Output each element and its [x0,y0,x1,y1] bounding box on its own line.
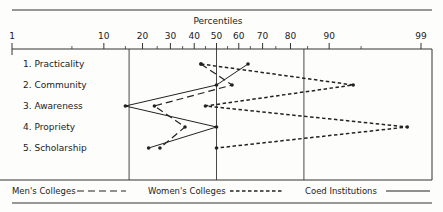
x-tick-label: 50 [211,31,223,41]
category-label: 5. Scholarship [23,143,87,153]
data-point-men-s-colleges [230,83,234,87]
x-tick-label: 40 [189,31,201,41]
data-point-women-s-colleges [215,146,219,150]
data-point-women-s-colleges [204,104,208,108]
data-point-men-s-colleges [153,104,157,108]
category-labels: 1. Practicality2. Community3. Awareness4… [23,59,87,153]
data-point-coed-institutions [124,104,128,108]
x-tick-label: 10 [98,31,110,41]
data-point-men-s-colleges [158,146,162,150]
category-label: 2. Community [23,80,87,90]
legend: Men's CollegesWomen's CollegesCoed Insti… [12,186,430,196]
data-point-coed-institutions [215,83,219,87]
data-point-coed-institutions [147,146,151,150]
legend-label: Women's Colleges [148,186,226,196]
category-label: 1. Practicality [23,59,85,69]
category-label: 4. Propriety [23,122,76,132]
x-tick-label: 70 [257,31,269,41]
x-axis: 110203040506070809099 [9,31,432,49]
series-lines [124,62,409,150]
axis-title: Percentiles [193,16,242,26]
legend-label: Men's Colleges [12,186,76,196]
series-line-men-s-colleges [154,64,232,148]
data-point-men-s-colleges [183,125,187,129]
series-line-coed-institutions [125,64,248,148]
legend-label: Coed Institutions [305,186,377,196]
data-point-coed-institutions [215,125,219,129]
percentile-profile-chart: Percentiles 110203040506070809099 1. Pra… [0,0,443,212]
x-tick-label: 30 [165,31,177,41]
data-point-women-s-colleges [405,125,409,129]
x-tick-label: 20 [137,31,149,41]
data-point-coed-institutions [246,62,250,66]
data-point-women-s-colleges [351,83,355,87]
x-tick-label: 60 [233,31,245,41]
data-point-women-s-colleges [199,62,203,66]
x-tick-label: 1 [9,31,15,41]
x-tick-label: 90 [323,31,335,41]
x-tick-label: 80 [285,31,297,41]
category-label: 3. Awareness [23,101,83,111]
x-tick-label: 99 [415,31,427,41]
